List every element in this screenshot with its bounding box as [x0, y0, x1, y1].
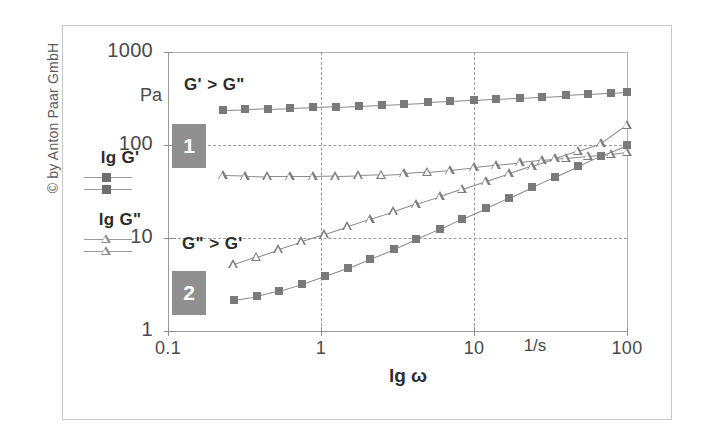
data-point-square [321, 272, 329, 280]
data-point-triangle [330, 171, 340, 180]
data-point-triangle [319, 229, 329, 238]
chart-figure: © by Anton Paar GmbH lg G' lg G" 1101001… [0, 0, 702, 443]
annotation-g-prime-greater: G' > G" [184, 75, 245, 95]
data-point-square [355, 102, 363, 110]
data-point-square [623, 141, 631, 149]
data-point-square [623, 88, 631, 96]
data-point-triangle [457, 184, 467, 193]
data-point-square [219, 106, 227, 114]
data-point-triangle [388, 206, 398, 215]
data-point-triangle [596, 138, 606, 147]
x-tick-label: 10 [444, 338, 504, 359]
data-point-square [551, 173, 559, 181]
data-point-square [286, 104, 294, 112]
data-point-square [378, 101, 386, 109]
x-tick [627, 327, 628, 336]
data-point-square [298, 280, 306, 288]
data-point-triangle [218, 170, 228, 179]
y-tick-label: 1000 [93, 39, 153, 62]
data-point-square [390, 245, 398, 253]
data-point-triangle [491, 160, 501, 169]
annotation-g-double-prime-greater: G" > G' [182, 234, 243, 254]
data-point-square [482, 204, 490, 212]
data-point-triangle [573, 146, 583, 155]
data-point-square [607, 89, 615, 97]
data-point-square [424, 98, 432, 106]
data-point-square [436, 225, 444, 233]
data-point-square [562, 91, 570, 99]
data-point-triangle [296, 236, 306, 245]
data-point-triangle [435, 191, 445, 200]
data-point-triangle [308, 171, 318, 180]
data-point-triangle [622, 120, 632, 129]
axis-top [168, 52, 628, 53]
data-point-triangle [583, 151, 593, 160]
data-point-triangle [376, 170, 386, 179]
legend-marker-filled-square-icon [74, 184, 166, 196]
data-point-square [516, 94, 524, 102]
data-point-triangle [251, 252, 261, 261]
copyright-notice: © by Anton Paar GmbH [45, 18, 61, 218]
data-point-triangle [504, 168, 514, 177]
data-point-square [332, 103, 340, 111]
data-point-square [253, 292, 261, 300]
y-tick [164, 238, 173, 239]
gridline-horizontal [168, 145, 627, 146]
x-tick-label: 100 [597, 338, 657, 359]
data-point-triangle [422, 167, 432, 176]
data-point-triangle [515, 157, 525, 166]
x-tick-label: 1 [291, 338, 351, 359]
data-point-triangle [228, 259, 238, 268]
data-point-square [574, 162, 582, 170]
data-point-square [528, 183, 536, 191]
data-point-square [344, 264, 352, 272]
data-point-triangle [527, 161, 537, 170]
data-point-square [538, 93, 546, 101]
data-point-square [458, 215, 466, 223]
y-axis [168, 52, 169, 332]
data-point-square [264, 105, 272, 113]
data-point-square [597, 152, 605, 160]
sample-2-badge: 2 [172, 271, 206, 315]
data-point-square [309, 103, 317, 111]
data-point-square [584, 90, 592, 98]
x-axis-title: lg ω [348, 365, 468, 387]
data-point-square [241, 105, 249, 113]
data-point-triangle [273, 244, 283, 253]
y-tick-label: 10 [93, 225, 153, 248]
data-point-square [275, 287, 283, 295]
data-point-square [505, 194, 513, 202]
sample-1-badge: 1 [172, 124, 206, 168]
data-point-square [230, 296, 238, 304]
data-point-triangle [353, 170, 363, 179]
data-point-triangle [285, 171, 295, 180]
x-tick-label: 0.1 [138, 338, 198, 359]
x-tick [321, 327, 322, 336]
data-point-triangle [445, 165, 455, 174]
gridline-vertical [321, 52, 322, 331]
data-point-triangle [240, 171, 250, 180]
data-point-triangle [550, 153, 560, 162]
data-point-square [492, 95, 500, 103]
data-point-triangle [481, 176, 491, 185]
x-tick [168, 327, 169, 336]
legend-marker-filled-square-icon [74, 172, 166, 184]
data-point-triangle [469, 162, 479, 171]
gridline-vertical [474, 52, 475, 331]
y-tick-label: 100 [93, 132, 153, 155]
x-axis [168, 331, 628, 332]
y-axis-unit: Pa [110, 85, 162, 106]
data-point-square [400, 100, 408, 108]
data-point-triangle [411, 199, 421, 208]
data-point-triangle [365, 214, 375, 223]
data-point-square [470, 96, 478, 104]
x-axis-unit: 1/s [505, 336, 565, 356]
data-point-triangle [342, 221, 352, 230]
data-point-square [446, 97, 454, 105]
y-tick [164, 52, 173, 53]
data-point-triangle [399, 168, 409, 177]
data-point-square [366, 255, 374, 263]
data-point-square [412, 235, 420, 243]
data-point-triangle [262, 171, 272, 180]
x-tick [474, 327, 475, 336]
